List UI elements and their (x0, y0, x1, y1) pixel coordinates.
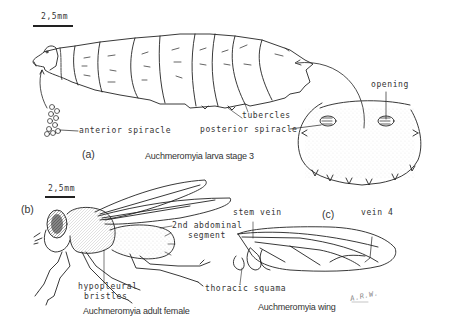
label-abdominal-segment-2: segment (188, 231, 226, 240)
caption-a: Auchmeromyia larva stage 3 (145, 151, 254, 161)
wing-drawing (233, 222, 395, 284)
scale-label-a: 2,5mm (41, 12, 68, 21)
illustration-artwork (0, 0, 449, 332)
label-posterior-spiracle: posterior spiracle (200, 125, 298, 134)
label-thoracic-squama: thoracic squama (205, 284, 286, 293)
caption-c: Auchmeromyia wing (258, 302, 336, 312)
label-tubercles: tubercles (242, 111, 291, 120)
panel-label-b: (b) (21, 203, 34, 215)
label-opening: opening (371, 80, 409, 89)
panel-label-a: (a) (82, 148, 95, 160)
label-hypopleural-1: hypopleural (78, 282, 138, 291)
label-vein4: vein 4 (361, 208, 394, 217)
panel-label-c: (c) (322, 208, 334, 220)
scale-bar-a (33, 25, 73, 27)
larva-body (33, 34, 313, 110)
caption-b: Auchmeromyia adult female (83, 306, 190, 316)
scale-label-b: 2,5mm (48, 184, 75, 193)
posterior-plate (290, 92, 421, 185)
label-anterior-spiracle: anterior spiracle (79, 126, 171, 135)
label-hypopleural-2: bristles (84, 292, 127, 301)
label-abdominal-segment-1: 2nd abdominal (172, 221, 242, 230)
label-stem-vein: stem vein (233, 208, 282, 217)
anterior-spiracle-detail (40, 70, 78, 137)
scale-bar-b (45, 196, 75, 198)
